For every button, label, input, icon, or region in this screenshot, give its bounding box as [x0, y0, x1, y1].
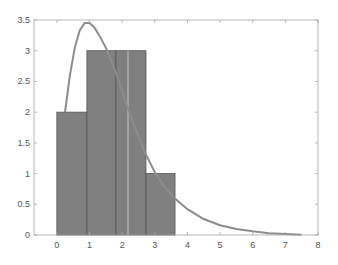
y-tick-label: 3.5: [17, 15, 30, 25]
x-tick-label: 5: [218, 240, 223, 250]
y-tick-label: 3: [25, 46, 30, 56]
histogram-bar: [87, 51, 116, 235]
x-tick-label: 8: [315, 240, 320, 250]
x-tick-label: 1: [87, 240, 92, 250]
y-tick-label: 2.5: [17, 76, 30, 86]
y-tick-label: 0.5: [17, 199, 30, 209]
x-tick-label: 7: [283, 240, 288, 250]
y-tick-label: 1: [25, 169, 30, 179]
histogram-bar: [57, 112, 87, 235]
histogram-chart: 012345678 00.511.522.533.5: [0, 0, 338, 265]
x-tick-label: 4: [185, 240, 190, 250]
x-tick-label: 3: [152, 240, 157, 250]
x-tick-label: 6: [250, 240, 255, 250]
histogram-bar: [146, 174, 175, 235]
x-tick-label: 2: [120, 240, 125, 250]
y-tick-label: 0: [25, 230, 30, 240]
y-tick-label: 1.5: [17, 138, 30, 148]
histogram-bars: [57, 51, 175, 235]
x-tick-label: 0: [54, 240, 59, 250]
y-tick-label: 2: [25, 107, 30, 117]
